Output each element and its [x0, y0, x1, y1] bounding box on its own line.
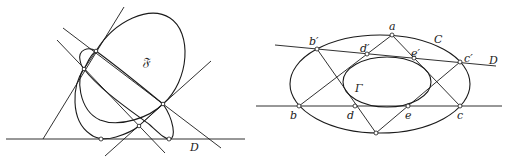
point-p1: [94, 49, 98, 53]
line-d-right: [275, 45, 496, 66]
label-line-d-left: D: [189, 141, 199, 154]
label-b: b: [290, 109, 297, 122]
label-c-prime: c′: [464, 52, 473, 65]
geometry-figure: 𝔉 D a C b′ d′ e′ c′ D Γ: [0, 0, 507, 161]
point-p4: [137, 124, 141, 128]
point-p2: [82, 67, 86, 71]
label-d: d: [347, 109, 354, 122]
label-e-prime: e′: [411, 47, 421, 60]
label-b-prime: b′: [309, 35, 319, 48]
point-c-prime: [458, 60, 462, 64]
tangent-point-t2: [167, 137, 171, 141]
point-p3: [161, 102, 165, 106]
conic-thin: [80, 49, 174, 139]
label-d-prime: d′: [360, 42, 370, 55]
diagonal-line-upper: [63, 28, 221, 148]
point-e: [406, 104, 410, 108]
point-a: [390, 33, 394, 37]
label-c: c: [457, 109, 463, 122]
label-conic-f: 𝔉: [142, 55, 151, 69]
point-d: [353, 104, 357, 108]
point-c: [458, 104, 462, 108]
label-line-d-right: D: [488, 54, 498, 67]
label-c-conic: C: [434, 33, 443, 46]
label-gamma: Γ: [354, 82, 363, 95]
tangent-line-left: [43, 7, 124, 139]
point-b: [297, 104, 301, 108]
conic-f-large: [80, 13, 185, 122]
edge-cprime-bottom: [376, 62, 460, 133]
label-e: e: [405, 109, 412, 122]
right-figure: a C b′ d′ e′ c′ D Γ b d e c: [256, 20, 502, 135]
left-figure: 𝔉 D: [6, 7, 245, 156]
tangent-point-t1: [99, 137, 103, 141]
label-a: a: [389, 20, 396, 33]
point-bottom: [374, 131, 378, 135]
